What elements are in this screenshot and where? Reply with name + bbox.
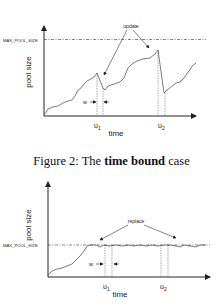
u1-label: u1 [103,283,110,292]
figure-canvas: MAX_POOL_SIZE pool size time update w u1… [0,0,223,306]
pool-size-curve [45,50,196,114]
update-annotation: update [123,23,139,29]
max-pool-size-label: MAX_POOL_SIZE [3,243,38,248]
replace-arrow-2 [144,225,176,238]
u2-label: u2 [158,122,165,131]
top-figure: MAX_POOL_SIZE pool size time update w u1… [3,23,206,138]
x-axis-label: time [112,290,128,299]
update-arrow-2 [133,30,149,48]
w-label: w [82,99,87,105]
u1-label: u1 [94,122,101,131]
figure-caption: Figure 2: The time bound case [33,154,190,168]
replace-arrow-1 [100,225,128,240]
y-axis-label: pool size [24,56,33,88]
bottom-figure: MAX_POOL_SIZE pool size time replace w u… [3,182,210,299]
pool-size-curve [48,245,206,275]
replace-annotation: replace [128,218,145,224]
w-label: w [88,261,93,267]
y-axis-label: pool size [24,209,33,241]
x-axis-label: time [108,129,124,138]
update-arrow-1 [104,30,127,75]
u2-label: u2 [160,283,167,292]
max-pool-size-label: MAX_POOL_SIZE [3,38,38,43]
